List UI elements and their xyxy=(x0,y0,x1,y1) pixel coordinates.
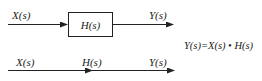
sfg-input-label: X(s) xyxy=(16,57,34,68)
sfg-output-label: Y(s) xyxy=(149,57,167,68)
block-label: H(s) xyxy=(69,19,112,31)
block-input-label: X(s) xyxy=(12,10,30,21)
sfg-branch-label: H(s) xyxy=(82,57,102,68)
transfer-function-block: H(s) xyxy=(68,12,113,37)
equation: Y(s)=X(s) • H(s) xyxy=(184,41,253,52)
block-output-label: Y(s) xyxy=(149,10,167,21)
